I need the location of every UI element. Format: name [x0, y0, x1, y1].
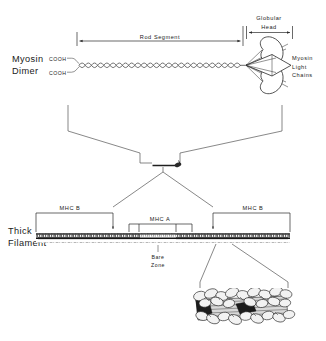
- myosin-dimer-label-line1: Myosin: [12, 54, 44, 64]
- thick-filament-label-line1: Thick: [8, 226, 32, 236]
- inset-content: [193, 285, 296, 326]
- myosin-dimer-label-line2: Dimer: [12, 66, 39, 76]
- bare-zone-label-line1: Bare: [152, 254, 165, 260]
- light-chains-label-line3: Chains: [292, 72, 313, 78]
- figure-canvas: Globular Head Rod Segment Myosin Dimer C…: [0, 0, 326, 341]
- cooh-label-lower: COOH: [49, 70, 67, 76]
- cooh-label-upper: COOH: [49, 56, 67, 62]
- bare-zone-label-line2: Zone: [151, 262, 165, 268]
- light-chains-label-line1: Myosin: [292, 55, 313, 61]
- globular-head-label-line2: Head: [261, 24, 277, 30]
- mhc-b-left-label: MHC B: [60, 205, 81, 211]
- light-chains-label-line2: Light: [292, 64, 307, 70]
- thick-filament-body: [36, 233, 290, 243]
- rod-segment-label: Rod Segment: [140, 34, 180, 40]
- myosin-thick-filament-figure: Globular Head Rod Segment Myosin Dimer C…: [0, 0, 326, 341]
- mhc-a-label: MHC A: [150, 216, 170, 222]
- mhc-b-right-label: MHC B: [243, 205, 264, 211]
- globular-head-label-line1: Globular: [256, 15, 282, 21]
